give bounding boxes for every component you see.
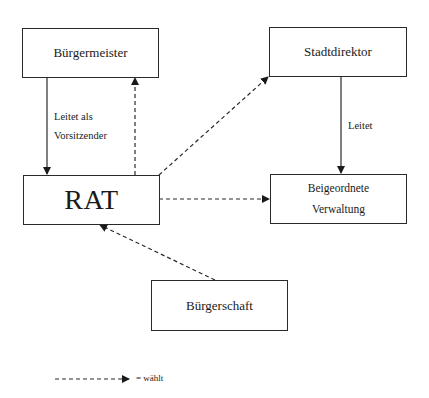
edge-rat-to-stadtdirektor xyxy=(159,77,268,175)
node-rat: RAT xyxy=(23,175,160,225)
node-beigeordnete-line2: Verwaltung xyxy=(312,199,365,220)
legend-meaning: = wählt xyxy=(136,373,163,383)
node-stadtdirektor: Stadtdirektor xyxy=(269,27,407,77)
legend-label: = wählt xyxy=(136,373,163,383)
edge-label-leitet: Leitet xyxy=(348,116,373,135)
node-stadtdirektor-label: Stadtdirektor xyxy=(304,44,372,60)
node-buergerschaft-label: Bürgerschaft xyxy=(186,298,253,314)
node-rat-label: RAT xyxy=(64,184,118,216)
node-beigeordnete-verwaltung: Beigeordnete Verwaltung xyxy=(270,174,407,224)
node-beigeordnete-line1: Beigeordnete xyxy=(308,178,369,199)
edge-label-leitet-text: Leitet xyxy=(348,120,373,131)
edge-label-leitet-als-vorsitzender: Leitet als Vorsitzender xyxy=(54,107,107,145)
node-buergerschaft: Bürgerschaft xyxy=(151,280,288,331)
node-buergermeister: Bürgermeister xyxy=(22,28,159,78)
edge-label-line1: Leitet als xyxy=(54,107,107,126)
edge-label-line2: Vorsitzender xyxy=(54,126,107,145)
node-buergermeister-label: Bürgermeister xyxy=(53,45,127,61)
edge-buergerschaft-to-rat xyxy=(100,225,215,280)
